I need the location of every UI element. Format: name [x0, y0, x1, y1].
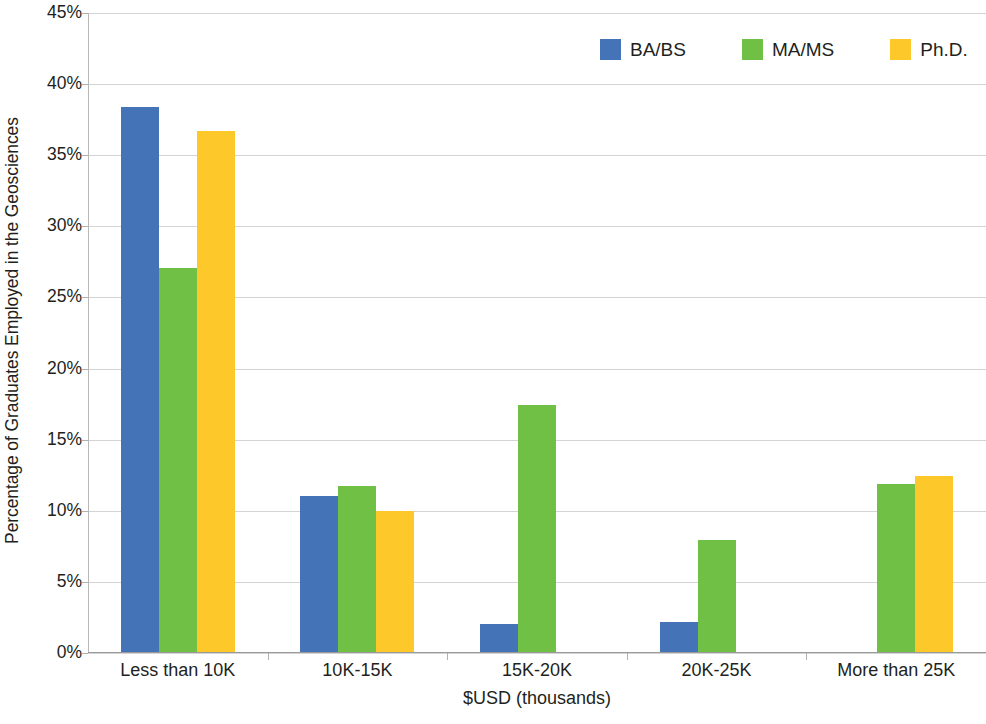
y-tick-mark: [82, 13, 88, 14]
y-tick-mark: [82, 297, 88, 298]
y-tick-label: 20%: [26, 360, 82, 378]
legend-item[interactable]: MA/MS: [742, 39, 834, 60]
y-axis-tick-labels: 0%5%10%15%20%25%30%35%40%45%: [26, 0, 82, 660]
x-category-label: 20K-25K: [627, 655, 807, 685]
bars-layer: [88, 13, 986, 653]
y-tick-mark: [82, 511, 88, 512]
y-tick-mark: [82, 369, 88, 370]
bar: [121, 107, 159, 652]
y-tick-label: 15%: [26, 431, 82, 449]
y-tick-label: 25%: [26, 289, 82, 307]
chart-legend: BA/BSMA/MSPh.D.: [600, 34, 968, 64]
y-tick-mark: [82, 226, 88, 227]
y-tick-mark: [82, 155, 88, 156]
legend-label: MA/MS: [772, 40, 834, 59]
x-category-label: More than 25K: [806, 655, 986, 685]
bar: [376, 511, 414, 652]
x-axis-title: $USD (thousands): [88, 688, 986, 709]
y-axis-title-text: Percentage of Graduates Employed in the …: [2, 117, 23, 544]
y-tick-mark: [82, 582, 88, 583]
y-axis-title: Percentage of Graduates Employed in the …: [0, 0, 24, 660]
legend-item[interactable]: Ph.D.: [890, 39, 968, 60]
legend-swatch-icon: [742, 39, 763, 60]
y-tick-mark: [82, 84, 88, 85]
legend-label: Ph.D.: [920, 40, 968, 59]
y-tick-label: 30%: [26, 218, 82, 236]
legend-label: BA/BS: [630, 40, 686, 59]
x-category-label: 10K-15K: [268, 655, 448, 685]
bar: [660, 622, 698, 652]
bar: [518, 405, 556, 652]
y-tick-mark: [82, 440, 88, 441]
gridline: [88, 653, 986, 654]
bar: [698, 540, 736, 652]
y-tick-label: 10%: [26, 502, 82, 520]
bar: [197, 131, 235, 652]
bar: [159, 268, 197, 652]
y-tick-label: 35%: [26, 146, 82, 164]
x-axis-line: [88, 652, 986, 653]
y-tick-label: 40%: [26, 75, 82, 93]
x-category-label: Less than 10K: [88, 655, 268, 685]
bar: [300, 496, 338, 652]
bar: [915, 476, 953, 652]
y-tick-label: 5%: [26, 573, 82, 591]
plot-area: [88, 13, 986, 653]
x-category-label: 15K-20K: [447, 655, 627, 685]
legend-swatch-icon: [890, 39, 911, 60]
x-axis-category-labels: Less than 10K10K-15K15K-20K20K-25KMore t…: [88, 655, 986, 687]
bar-chart: Percentage of Graduates Employed in the …: [0, 0, 986, 724]
bar: [480, 624, 518, 652]
y-tick-label: 45%: [26, 4, 82, 22]
y-tick-mark: [82, 653, 88, 654]
bar: [877, 484, 915, 652]
y-tick-label: 0%: [26, 644, 82, 662]
legend-item[interactable]: BA/BS: [600, 39, 686, 60]
bar: [338, 486, 376, 652]
legend-swatch-icon: [600, 39, 621, 60]
